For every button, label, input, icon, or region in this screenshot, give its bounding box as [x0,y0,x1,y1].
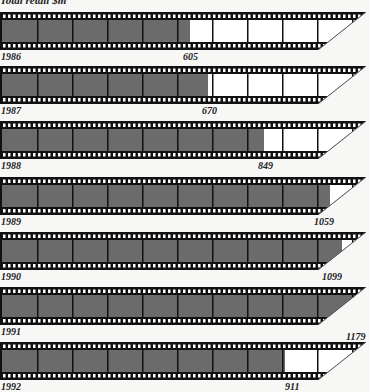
filmstrip-graphic [0,12,370,50]
year-label: 1992 [1,381,21,392]
year-label: 1988 [1,160,21,171]
value-label: 1059 [314,216,334,227]
filmstrip-1992 [0,342,370,380]
filmstrip-1990 [0,232,370,270]
chart-title: Total retail $m [0,0,66,6]
filmstrip-1989 [0,177,370,215]
filmstrip-graphic [0,232,370,270]
value-label: 849 [258,160,273,171]
filmstrip-graphic [0,287,370,325]
filmstrip-1986 [0,12,370,50]
value-label: 911 [285,381,299,392]
filmstrip-graphic [0,177,370,215]
value-label: 1099 [322,271,342,282]
year-label: 1986 [1,51,21,62]
year-label: 1990 [1,271,21,282]
value-label: 1179 [346,331,365,342]
filmstrip-graphic [0,66,370,104]
year-label: 1989 [1,216,21,227]
filmstrip-1988 [0,121,370,159]
filmstrip-graphic [0,121,370,159]
year-label: 1991 [1,326,21,337]
value-label: 670 [202,105,217,116]
value-label: 605 [183,51,198,62]
filmstrip-1987 [0,66,370,104]
year-label: 1987 [1,105,21,116]
filmstrip-graphic [0,342,370,380]
filmstrip-1991 [0,287,370,325]
